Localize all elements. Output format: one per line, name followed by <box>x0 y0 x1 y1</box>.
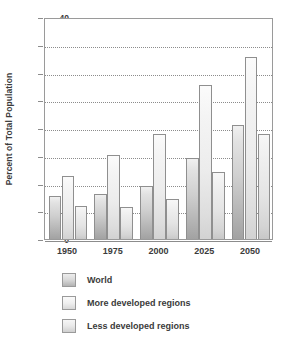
y-axis-tickmark <box>38 240 43 241</box>
y-axis-tickmark <box>38 129 43 130</box>
plot-area <box>44 18 273 240</box>
bar <box>186 158 199 239</box>
y-axis-tickmark <box>38 101 43 102</box>
legend-item-label: More developed regions <box>87 298 191 308</box>
bar <box>140 186 153 239</box>
y-axis-tickmark <box>38 74 43 75</box>
chart-legend: WorldMore developed regionsLess develope… <box>62 268 282 337</box>
bar <box>62 176 75 239</box>
y-axis-tickmark <box>38 185 43 186</box>
x-axis-tick-label: 1975 <box>103 246 123 256</box>
bar <box>75 206 88 239</box>
bar <box>199 85 212 239</box>
y-axis-tickmark <box>38 212 43 213</box>
legend-swatch <box>62 296 76 310</box>
bar <box>212 172 225 239</box>
bar <box>166 199 179 239</box>
legend-item: Less developed regions <box>62 314 282 337</box>
x-axis-tick-label: 2000 <box>148 246 168 256</box>
legend-item-label: World <box>87 275 112 285</box>
bar <box>120 207 133 239</box>
x-axis-tick-label: 1950 <box>57 246 77 256</box>
legend-item: World <box>62 268 282 291</box>
y-axis-title-label: Percent of Total Population <box>4 73 14 186</box>
bar-group <box>49 19 88 239</box>
legend-swatch <box>62 319 76 333</box>
y-axis-tickmark <box>38 18 43 19</box>
bar-group <box>186 19 225 239</box>
legend-swatch <box>62 273 76 287</box>
legend-item: More developed regions <box>62 291 282 314</box>
bar-chart: Percent of Total Population 051015202530… <box>0 0 293 339</box>
x-axis-tick-label: 2050 <box>240 246 260 256</box>
legend-item-label: Less developed regions <box>87 321 190 331</box>
x-axis-tick-label: 2025 <box>194 246 214 256</box>
bar-group <box>94 19 133 239</box>
bar <box>232 125 245 239</box>
bar <box>245 57 258 239</box>
gridline <box>45 241 272 242</box>
bar <box>153 134 166 239</box>
bar-group <box>232 19 271 239</box>
y-axis-title: Percent of Total Population <box>0 18 18 240</box>
y-axis-tickmark <box>38 157 43 158</box>
y-axis-tickmark <box>38 46 43 47</box>
bar <box>258 134 271 239</box>
bar-group <box>140 19 179 239</box>
bar <box>107 155 120 239</box>
bar <box>49 196 62 239</box>
bar <box>94 194 107 239</box>
